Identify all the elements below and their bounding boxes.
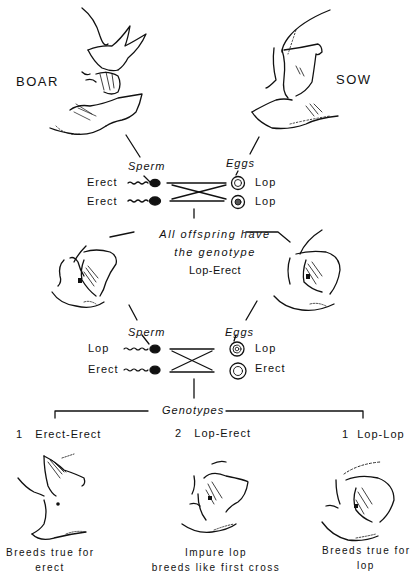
caption-line-1: Breeds true for — [322, 543, 410, 558]
outcome-caption: Impure lop breeds like first cross — [150, 545, 282, 575]
egg-icon — [230, 363, 246, 379]
eggs-heading: Eggs — [226, 157, 255, 169]
outcome-genotype-row: 1 Erect-Erect — [16, 428, 101, 440]
sperm-icon — [150, 345, 160, 353]
egg-allele-label: Erect — [255, 362, 286, 374]
caption-line-1: Breeds true for — [6, 545, 94, 560]
sow-connector-line — [250, 137, 259, 154]
sperm-allele-label: Erect — [87, 195, 118, 207]
diagram-artwork — [0, 0, 414, 581]
egg-allele-label: Lop — [255, 195, 276, 207]
sperm-allele-label: Lop — [88, 342, 109, 354]
boar-head-illustration — [50, 8, 146, 134]
sperm-heading: Sperm — [128, 160, 165, 172]
egg-allele-label: Lop — [255, 176, 276, 188]
result-line-1: All offspring have — [130, 225, 300, 243]
sperm-icon — [150, 179, 160, 186]
ratio-count: 1 — [16, 428, 23, 440]
caption-line-2: breeds like first cross — [150, 560, 282, 575]
sperm-icon — [150, 366, 160, 374]
boar-label: BOAR — [16, 74, 59, 89]
sow-head-illustration — [252, 10, 338, 129]
genotype-label: Lop-Erect — [194, 427, 251, 439]
result-genotype: Lop-Erect — [130, 261, 300, 279]
genotypes-bracket-left — [55, 411, 148, 418]
genotypes-bracket-right — [226, 411, 363, 418]
caption-line-2: lop — [322, 558, 410, 573]
boar-connector-line — [126, 135, 140, 157]
outcome-erect-erect-illustration — [18, 454, 86, 539]
outcome-caption: Breeds true for erect — [6, 545, 94, 575]
result-line-2: the genotype — [130, 243, 300, 261]
egg-icon — [230, 342, 244, 356]
sperm-allele-label: Erect — [88, 363, 119, 375]
sow-label: SOW — [336, 72, 372, 87]
genotype-label: Lop-Lop — [357, 428, 404, 440]
sperm-allele-label: Erect — [87, 176, 118, 188]
genotype-label: Erect-Erect — [35, 428, 101, 440]
ratio-count: 2 — [175, 427, 182, 439]
outcome-lop-lop-illustration — [322, 462, 394, 541]
outcome-genotype-row: 2 Lop-Erect — [175, 427, 251, 439]
offspring-lop-erect-left-illustration — [52, 246, 116, 307]
egg-allele-label: Lop — [255, 342, 276, 354]
genotypes-heading: Genotypes — [162, 404, 224, 416]
caption-line-2: erect — [6, 560, 94, 575]
outcome-genotype-row: 1 Lop-Lop — [342, 428, 405, 440]
egg-icon — [232, 177, 245, 190]
outcome-caption: Breeds true for lop — [322, 543, 410, 573]
caption-line-1: Impure lop — [150, 545, 282, 560]
result-statement: All offspring have the genotype Lop-Erec… — [130, 225, 300, 279]
eggs-heading: Eggs — [225, 326, 254, 338]
sperm-heading: Sperm — [128, 326, 165, 338]
sperm-icon — [150, 197, 161, 205]
ratio-count: 1 — [342, 428, 349, 440]
outcome-lop-erect-illustration — [182, 461, 248, 532]
